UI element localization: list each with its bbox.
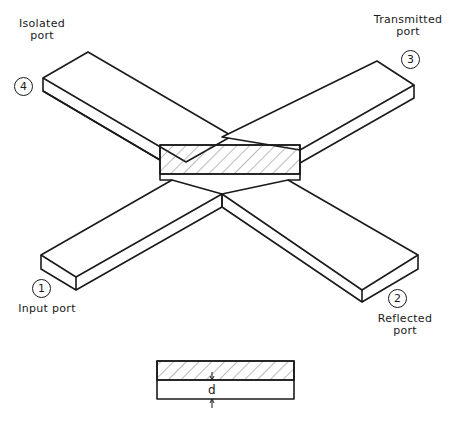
coupler-drawing	[0, 0, 456, 434]
port-2-label: Reflected port	[370, 313, 440, 337]
port-1-label: Input port	[12, 303, 82, 315]
port-4-label: Isolated port	[12, 18, 72, 42]
port-1-number: 1	[32, 279, 51, 298]
center-junction	[160, 145, 300, 180]
port-3-number: 3	[401, 50, 420, 69]
port-4-number: 4	[14, 77, 33, 96]
cross-section	[157, 361, 294, 399]
thickness-label: d	[205, 384, 219, 396]
port-2-number: 2	[388, 289, 407, 308]
port-3-label: Transmitted port	[368, 14, 448, 38]
arm-port-1	[41, 180, 222, 290]
arm-port-2	[222, 180, 418, 302]
